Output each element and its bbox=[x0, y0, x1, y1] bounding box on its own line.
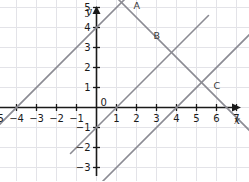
point-label-a: A bbox=[134, 0, 141, 11]
point-label-b: B bbox=[154, 30, 161, 41]
y-axis-label: y bbox=[84, 5, 92, 18]
point-label-c: C bbox=[214, 80, 221, 91]
x-tick-label: −3 bbox=[29, 113, 44, 124]
x-axis-label: x bbox=[234, 114, 241, 127]
x-tick-label: 5 bbox=[193, 113, 199, 124]
y-tick-label: −2 bbox=[76, 142, 91, 153]
plot-line-line-3 bbox=[71, 16, 209, 154]
coordinate-plane-figure: −5−4−3−2−11234567854321−1−2−3−40 xy ABC bbox=[0, 0, 249, 181]
y-tick-label: −1 bbox=[76, 122, 91, 133]
tick-marks bbox=[0, 8, 249, 182]
x-tick-label: 6 bbox=[213, 113, 219, 124]
x-tick-label: −4 bbox=[9, 113, 24, 124]
y-tick-label: 4 bbox=[84, 22, 90, 33]
gridlines bbox=[0, 0, 249, 181]
y-tick-label: 3 bbox=[84, 42, 90, 53]
y-tick-label: 2 bbox=[84, 62, 90, 73]
x-tick-label: 4 bbox=[173, 113, 179, 124]
x-tick-label: 3 bbox=[153, 113, 159, 124]
x-tick-label: −2 bbox=[49, 113, 64, 124]
x-tick-label: 1 bbox=[113, 113, 119, 124]
origin-label: 0 bbox=[101, 97, 107, 108]
graph-canvas: −5−4−3−2−11234567854321−1−2−3−40 xy ABC bbox=[0, 0, 249, 181]
tick-labels: −5−4−3−2−11234567854321−1−2−3−40 bbox=[0, 2, 249, 181]
y-tick-label: 1 bbox=[84, 82, 90, 93]
plot-line-line-2 bbox=[0, 16, 249, 182]
x-tick-label: 2 bbox=[133, 113, 139, 124]
y-tick-label: −3 bbox=[76, 162, 91, 173]
x-tick-label: −5 bbox=[0, 113, 4, 124]
